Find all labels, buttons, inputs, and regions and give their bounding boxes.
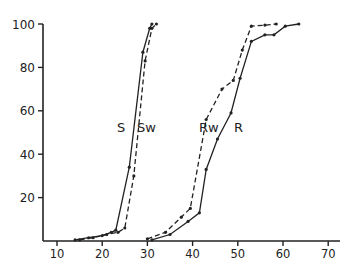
data-point [232,79,235,82]
data-point [92,236,95,239]
curve-label-r: R [234,120,243,135]
data-point [132,174,135,177]
data-point [216,137,219,140]
data-point [105,233,108,236]
data-point [78,238,81,241]
data-point [250,40,253,43]
data-point [180,216,183,219]
data-point [164,231,167,234]
data-point [205,168,208,171]
x-tick-label: 20 [95,247,110,261]
data-point [272,33,275,36]
data-point [238,77,241,80]
x-tick-label: 40 [185,247,200,261]
axes: 2040608010010203040506070 [12,18,340,262]
data-point [150,27,153,30]
data-point [263,23,266,26]
data-point [146,237,149,240]
data-point [241,48,244,51]
data-point [284,25,287,28]
data-point [168,233,171,236]
data-point [186,220,189,223]
y-tick-label: 40 [20,148,35,162]
series-group [73,22,300,241]
y-tick-label: 80 [20,61,35,75]
y-tick-label: 100 [12,18,35,32]
data-point [297,22,300,25]
data-point [275,22,278,25]
x-tick-label: 10 [50,247,65,261]
data-point [150,238,153,241]
data-point [189,207,192,210]
x-tick-label: 50 [230,247,245,261]
data-point [198,211,201,214]
x-tick-label: 60 [276,247,291,261]
data-point [116,231,119,234]
data-point [73,238,76,241]
curve-label-sw: Sw [137,120,156,135]
x-tick-label: 30 [140,247,155,261]
data-point [220,88,223,91]
data-point [250,25,253,28]
data-point [141,51,144,54]
curve-label-rw: Rw [199,120,219,135]
data-point [229,111,232,114]
data-point [263,33,266,36]
x-tick-label: 70 [321,247,336,261]
curve-label-s: S [117,120,125,135]
y-tick-label: 20 [20,191,35,205]
cumulative-curve-chart: 2040608010010203040506070 SSwRwR [0,0,355,274]
data-point [123,226,126,229]
data-point [128,166,131,169]
data-point [150,22,153,25]
series-line-r [152,24,299,240]
data-point [144,59,147,62]
y-tick-label: 60 [20,104,35,118]
data-point [155,22,158,25]
